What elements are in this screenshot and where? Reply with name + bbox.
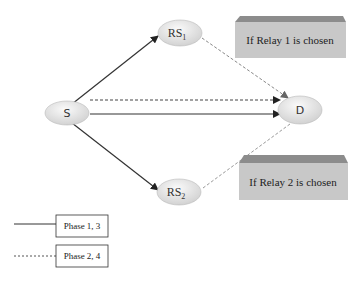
legend-solid-label: Phase 1, 3 bbox=[64, 221, 101, 231]
node-source: S bbox=[45, 101, 89, 125]
legend-dashed-label: Phase 2, 4 bbox=[64, 251, 101, 261]
node-relay1: RS1 bbox=[158, 20, 202, 46]
legend: Phase 1, 3 Phase 2, 4 bbox=[14, 215, 108, 267]
relay2-annotation-box: If Relay 2 is chosen bbox=[239, 155, 348, 200]
relay1-annotation-text: If Relay 1 is chosen bbox=[246, 34, 334, 46]
relay-diagram: S RS1 RS2 D If Relay 1 is chosen If Rela… bbox=[0, 0, 358, 284]
node-destination-label: D bbox=[296, 104, 304, 117]
node-relay2: RS2 bbox=[157, 179, 201, 205]
edge-s-rs2 bbox=[72, 123, 158, 190]
edge-s-rs1 bbox=[72, 36, 158, 104]
legend-item-solid: Phase 1, 3 bbox=[14, 215, 108, 237]
relay2-annotation-text: If Relay 2 is chosen bbox=[249, 176, 337, 188]
relay1-annotation-box: If Relay 1 is chosen bbox=[235, 16, 346, 58]
node-source-label: S bbox=[64, 107, 71, 120]
legend-item-dashed: Phase 2, 4 bbox=[14, 245, 108, 267]
node-destination: D bbox=[278, 96, 322, 124]
